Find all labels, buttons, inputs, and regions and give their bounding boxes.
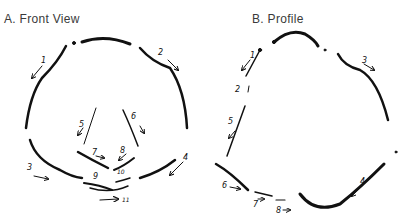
label-a-11: 11	[122, 196, 130, 203]
label-a-4: 4	[183, 153, 188, 162]
label-b-4: 4	[360, 177, 365, 186]
label-b-5: 5	[228, 117, 233, 126]
profile-labels: 1 2 3 4 5 6 7 8	[222, 51, 367, 215]
profile-strokes	[216, 32, 397, 210]
stroke-diagram: 1 2 3 4 5 6 7 8 9 10 11	[0, 0, 413, 224]
label-a-1: 1	[41, 56, 46, 65]
label-b-7: 7	[253, 200, 259, 209]
label-a-8: 8	[120, 146, 125, 155]
label-b-2: 2	[235, 85, 240, 94]
label-a-2: 2	[158, 48, 163, 57]
label-a-6: 6	[131, 112, 136, 121]
label-a-5: 5	[79, 120, 84, 129]
label-b-6: 6	[222, 181, 227, 190]
label-b-3: 3	[362, 56, 367, 65]
front-view-strokes	[26, 38, 187, 200]
label-b-8: 8	[276, 206, 281, 215]
label-a-9: 9	[93, 172, 98, 181]
label-a-7: 7	[92, 148, 98, 157]
label-a-3: 3	[27, 163, 32, 172]
front-view-labels: 1 2 3 4 5 6 7 8 9 10 11	[27, 48, 188, 203]
label-a-10: 10	[117, 168, 125, 175]
label-b-1: 1	[250, 51, 255, 60]
